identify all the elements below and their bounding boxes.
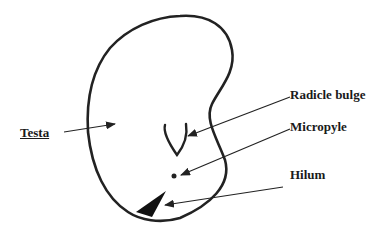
- seed-diagram: Testa Radicle bulge Micropyle Hilum: [0, 0, 391, 233]
- testa-label: Testa: [20, 126, 49, 139]
- testa-arrow: [64, 124, 115, 132]
- micropyle-label: Micropyle: [290, 120, 347, 133]
- radicle-bulge-label: Radicle bulge: [290, 88, 365, 101]
- micropyle-arrow: [181, 129, 290, 175]
- hilum-label: Hilum: [290, 168, 325, 181]
- hilum-shape: [136, 191, 166, 217]
- micropyle-dot: [172, 174, 177, 179]
- seed-outline: [88, 16, 233, 221]
- radicle-bulge-arrow: [188, 97, 290, 136]
- radicle-bulge-shape: [165, 124, 187, 155]
- seed-drawing: [0, 0, 391, 233]
- hilum-arrow: [165, 187, 283, 205]
